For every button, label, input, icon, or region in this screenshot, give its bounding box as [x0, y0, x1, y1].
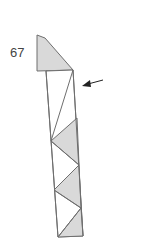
origami-diagram	[0, 0, 141, 251]
top-flap	[37, 35, 73, 71]
left-arrow-icon	[82, 80, 103, 87]
